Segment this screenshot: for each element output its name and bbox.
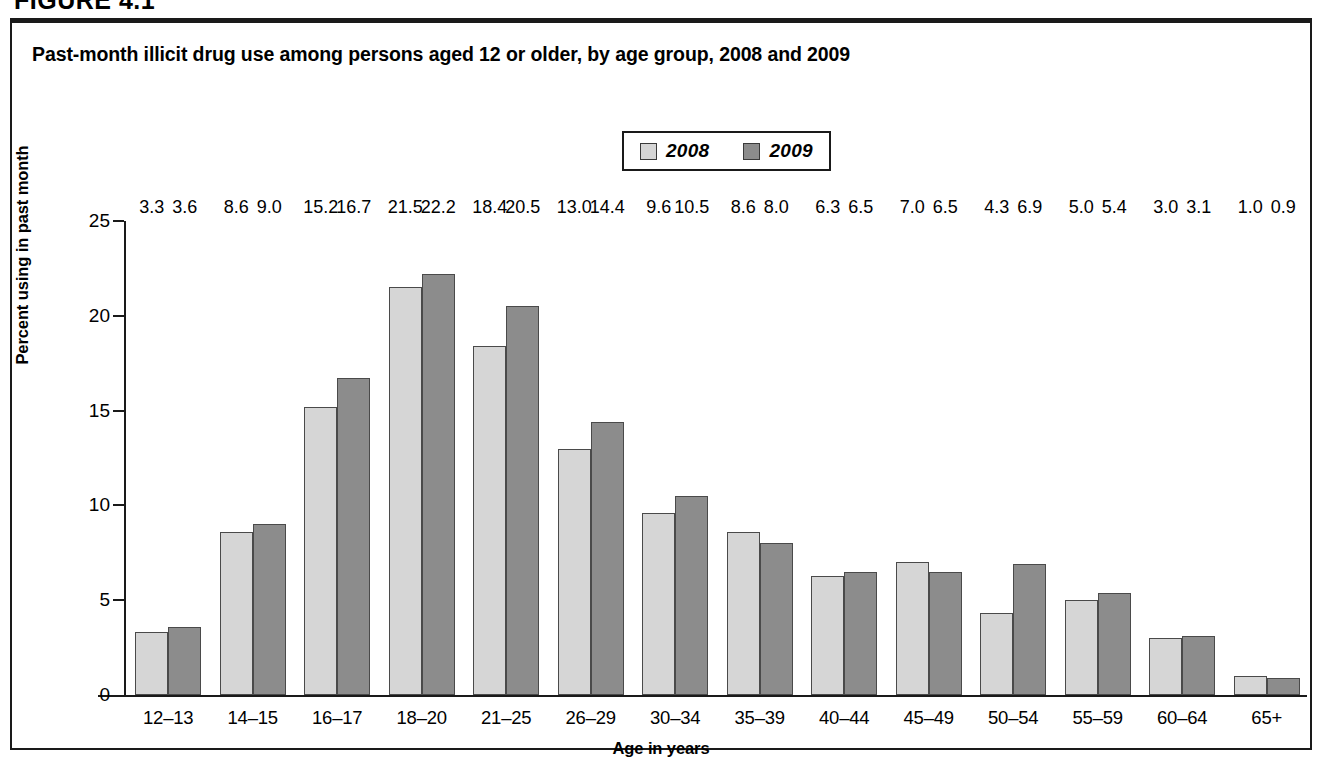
bar-2009-21–25[interactable]: 20.5 <box>506 306 539 695</box>
bar-value-label: 18.4 <box>472 197 507 218</box>
bar-group: 7.06.5 <box>887 221 972 695</box>
bar-2009-30–34[interactable]: 10.5 <box>675 496 708 695</box>
bar-wrap: 8.6 <box>727 221 760 695</box>
bar-value-label: 20.5 <box>505 197 540 218</box>
bar-2009-60–64[interactable]: 3.1 <box>1182 636 1215 695</box>
bar-group: 8.69.0 <box>211 221 296 695</box>
figure-number: FIGURE 4.1 <box>14 0 155 15</box>
bar-wrap: 6.5 <box>844 221 877 695</box>
y-axis-title: Percent using in past month <box>13 145 32 364</box>
bar-value-label: 3.3 <box>139 197 164 218</box>
bar-2008-12–13[interactable]: 3.3 <box>135 632 168 695</box>
bar-wrap: 3.3 <box>135 221 168 695</box>
bar-group: 4.36.9 <box>971 221 1056 695</box>
y-tick-label-25: 25 <box>70 210 110 232</box>
x-axis-title: Age in years <box>12 739 1310 758</box>
x-tick-label-21–25: 21–25 <box>464 707 549 729</box>
bar-2009-55–59[interactable]: 5.4 <box>1098 593 1131 695</box>
bar-2009-12–13[interactable]: 3.6 <box>168 627 201 695</box>
x-tick-label-12–13: 12–13 <box>126 707 211 729</box>
bar-2009-35–39[interactable]: 8.0 <box>760 543 793 695</box>
bar-wrap: 5.4 <box>1098 221 1131 695</box>
x-tick-label-40–44: 40–44 <box>802 707 887 729</box>
bar-value-label: 7.0 <box>900 197 925 218</box>
bar-2009-18–20[interactable]: 22.2 <box>422 274 455 695</box>
bar-value-label: 1.0 <box>1238 197 1263 218</box>
bar-wrap: 21.5 <box>389 221 422 695</box>
x-tick-label-60–64: 60–64 <box>1140 707 1225 729</box>
bar-value-label: 6.5 <box>848 197 873 218</box>
x-tick-label-18–20: 18–20 <box>380 707 465 729</box>
bar-value-label: 3.0 <box>1153 197 1178 218</box>
bar-wrap: 8.0 <box>760 221 793 695</box>
bar-2008-40–44[interactable]: 6.3 <box>811 576 844 695</box>
bar-2009-50–54[interactable]: 6.9 <box>1013 564 1046 695</box>
y-tick-mark-10 <box>113 504 124 506</box>
bar-2008-30–34[interactable]: 9.6 <box>642 513 675 695</box>
x-tick-label-30–34: 30–34 <box>633 707 718 729</box>
bar-group: 3.03.1 <box>1140 221 1225 695</box>
y-tick-label-15: 15 <box>70 400 110 422</box>
bar-value-label: 14.4 <box>590 197 625 218</box>
bar-2008-21–25[interactable]: 18.4 <box>473 346 506 695</box>
bar-wrap: 15.2 <box>304 221 337 695</box>
bar-2009-16–17[interactable]: 16.7 <box>337 378 370 695</box>
bar-2008-14–15[interactable]: 8.6 <box>220 532 253 695</box>
bar-2008-60–64[interactable]: 3.0 <box>1149 638 1182 695</box>
y-tick-mark-15 <box>113 410 124 412</box>
bar-2008-45–49[interactable]: 7.0 <box>896 562 929 695</box>
bar-value-label: 15.2 <box>303 197 338 218</box>
bar-wrap: 9.6 <box>642 221 675 695</box>
x-tick-label-26–29: 26–29 <box>549 707 634 729</box>
bar-2009-26–29[interactable]: 14.4 <box>591 422 624 695</box>
x-tick-label-14–15: 14–15 <box>211 707 296 729</box>
x-axis-line <box>98 695 1307 697</box>
bar-wrap: 20.5 <box>506 221 539 695</box>
bar-value-label: 9.0 <box>257 197 282 218</box>
legend-swatch-2008 <box>640 143 657 160</box>
bar-2009-14–15[interactable]: 9.0 <box>253 524 286 695</box>
bar-value-label: 3.1 <box>1186 197 1211 218</box>
bar-wrap: 4.3 <box>980 221 1013 695</box>
bar-value-label: 6.5 <box>933 197 958 218</box>
bar-value-label: 6.3 <box>815 197 840 218</box>
y-tick-label-20: 20 <box>70 305 110 327</box>
bar-wrap: 1.0 <box>1234 221 1267 695</box>
bar-wrap: 10.5 <box>675 221 708 695</box>
y-tick-label-10: 10 <box>70 494 110 516</box>
bar-value-label: 8.6 <box>224 197 249 218</box>
bar-wrap: 18.4 <box>473 221 506 695</box>
legend-entry-2008: 2008 <box>640 140 709 162</box>
bar-wrap: 3.0 <box>1149 221 1182 695</box>
bar-2008-65+[interactable]: 1.0 <box>1234 676 1267 695</box>
bar-2009-45–49[interactable]: 6.5 <box>929 572 962 695</box>
x-tick-label-35–39: 35–39 <box>718 707 803 729</box>
x-tick-label-55–59: 55–59 <box>1056 707 1141 729</box>
bar-wrap: 3.6 <box>168 221 201 695</box>
x-tick-label-16–17: 16–17 <box>295 707 380 729</box>
chart-legend: 2008 2009 <box>622 131 831 171</box>
bar-2008-50–54[interactable]: 4.3 <box>980 613 1013 695</box>
legend-swatch-2009 <box>743 143 760 160</box>
x-tick-label-50–54: 50–54 <box>971 707 1056 729</box>
y-axis-title-wrap: Percent using in past month <box>50 23 70 497</box>
bar-2008-55–59[interactable]: 5.0 <box>1065 600 1098 695</box>
bar-2008-16–17[interactable]: 15.2 <box>304 407 337 695</box>
bar-value-label: 5.0 <box>1069 197 1094 218</box>
bar-wrap: 6.9 <box>1013 221 1046 695</box>
chart-title: Past-month illicit drug use among person… <box>32 43 850 66</box>
bar-group: 21.522.2 <box>380 221 465 695</box>
bar-2008-35–39[interactable]: 8.6 <box>727 532 760 695</box>
bar-2008-18–20[interactable]: 21.5 <box>389 287 422 695</box>
bar-value-label: 5.4 <box>1102 197 1127 218</box>
figure-frame: Past-month illicit drug use among person… <box>10 18 1312 750</box>
bar-group: 3.33.6 <box>126 221 211 695</box>
bar-wrap: 14.4 <box>591 221 624 695</box>
bar-value-label: 10.5 <box>674 197 709 218</box>
bar-2009-40–44[interactable]: 6.5 <box>844 572 877 695</box>
legend-entry-2009: 2009 <box>743 140 812 162</box>
x-tick-label-45–49: 45–49 <box>887 707 972 729</box>
bar-2008-26–29[interactable]: 13.0 <box>558 449 591 695</box>
bar-group: 6.36.5 <box>802 221 887 695</box>
bar-2009-65+[interactable]: 0.9 <box>1267 678 1300 695</box>
